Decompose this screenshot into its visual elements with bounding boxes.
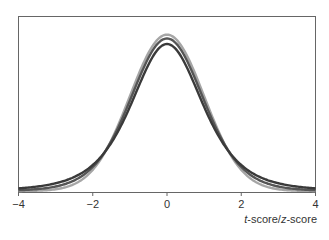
curve-t-df4 (19, 44, 316, 188)
x-tick-label: 2 (238, 198, 244, 210)
x-tick-label: −2 (86, 198, 99, 210)
x-tick-label: 0 (164, 198, 170, 210)
x-tick-label: 4 (312, 198, 318, 210)
x-axis-label: t-score/z-score (244, 213, 317, 225)
density-chart: −4−2024 (0, 0, 329, 240)
curve-z (19, 35, 316, 191)
curve-t-df10 (19, 38, 316, 190)
x-axis-ticks: −4−2024 (12, 192, 318, 210)
curves (19, 35, 316, 191)
x-tick-label: −4 (12, 198, 25, 210)
